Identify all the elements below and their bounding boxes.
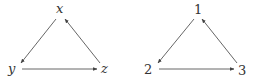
node-1-label: 1 xyxy=(194,2,202,17)
number-graph: 1 2 3 xyxy=(144,2,246,78)
diagram-canvas: x y z 1 2 3 xyxy=(0,0,254,83)
node-x-label: x xyxy=(56,1,64,16)
node-3-label: 3 xyxy=(238,63,246,78)
letter-graph: x y z xyxy=(7,1,108,76)
edge-1-to-2 xyxy=(158,19,194,63)
diagram-svg: x y z 1 2 3 xyxy=(0,0,254,83)
node-z-label: z xyxy=(100,61,108,76)
edge-x-to-y xyxy=(21,19,56,63)
node-2-label: 2 xyxy=(144,62,152,77)
edge-z-to-x xyxy=(65,19,100,63)
node-y-label: y xyxy=(7,61,16,76)
edge-3-to-1 xyxy=(202,19,237,63)
